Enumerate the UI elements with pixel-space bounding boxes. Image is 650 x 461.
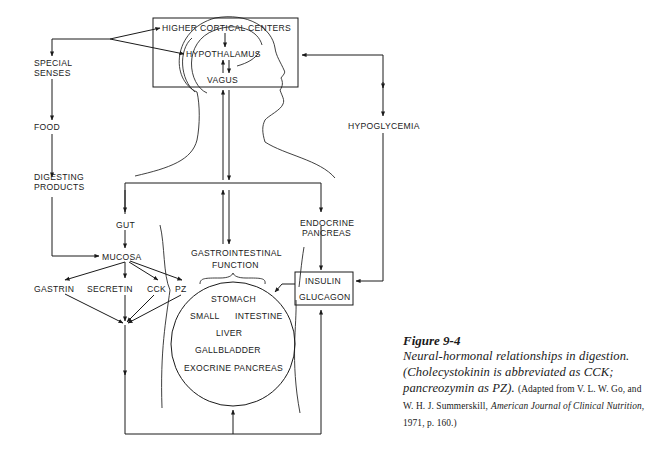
label-special-senses-2: SENSES [34, 68, 71, 78]
label-secretin: SECRETIN [87, 284, 133, 294]
label-exocrine-pancreas: EXOCRINE PANCREAS [184, 363, 283, 373]
label-digesting-products-2: PRODUCTS [34, 182, 85, 192]
label-gastrin: GASTRIN [34, 284, 74, 294]
caption-journal: American Journal of Clinical Nutrition [491, 401, 642, 411]
label-endocrine-pancreas: ENDOCRINE [300, 218, 354, 228]
label-stomach: STOMACH [211, 294, 256, 304]
figure-number: Figure 9-4 [403, 333, 648, 348]
label-liver: LIVER [216, 328, 242, 338]
label-hypoglycemia: HYPOGLYCEMIA [348, 121, 420, 131]
label-pz: PZ [175, 284, 187, 294]
label-higher-cortical-centers: HIGHER CORTICAL CENTERS [162, 23, 291, 33]
figure-description: Neural-hormonal relationships in digesti… [403, 348, 648, 431]
label-cck: CCK [147, 284, 166, 294]
figure-caption: Figure 9-4 Neural-hormonal relationships… [403, 333, 648, 431]
label-gi-function: GASTROINTESTINAL [191, 248, 282, 258]
label-intestine: INTESTINE [235, 311, 283, 321]
label-glucagon: GLUCAGON [299, 292, 351, 302]
label-special-senses: SPECIAL [34, 58, 72, 68]
label-gallbladder: GALLBLADDER [195, 345, 261, 355]
label-gut: GUT [116, 220, 135, 230]
label-small: SMALL [190, 311, 220, 321]
label-food: FOOD [34, 122, 60, 132]
label-hypothalamus: HYPOTHALAMUS [186, 49, 261, 59]
label-vagus: VAGUS [207, 75, 238, 85]
label-mucosa: MUCOSA [102, 252, 142, 262]
label-insulin: INSULIN [305, 276, 341, 286]
label-endocrine-pancreas-2: PANCREAS [302, 228, 351, 238]
label-gi-function-2: FUNCTION [212, 260, 259, 270]
label-digesting-products: DIGESTING [34, 172, 84, 182]
